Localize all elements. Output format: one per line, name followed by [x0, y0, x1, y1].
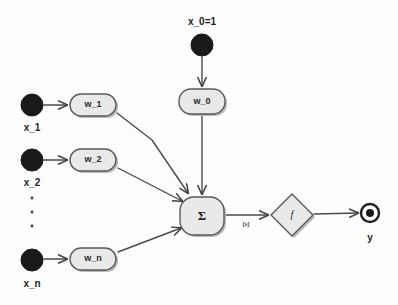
input-node-x1[interactable] [21, 94, 43, 116]
perceptron-diagram: [s] w_0 w_1 w_2 w_n Σ [0, 0, 398, 305]
edge-label-sum-to-f: [s] [243, 221, 250, 227]
input-node-x2[interactable] [21, 149, 43, 171]
input-label-x1: x_1 [24, 122, 41, 133]
summation-label: Σ [198, 208, 207, 223]
weight-label-wn: w_n [83, 253, 102, 263]
activation-node[interactable]: f [271, 194, 315, 238]
summation-node[interactable]: Σ [180, 197, 226, 237]
output-label-y: y [367, 232, 373, 243]
weight-node-wn[interactable]: w_n [70, 248, 118, 272]
input-node-xn[interactable] [21, 249, 43, 271]
weight-node-w0[interactable]: w_0 [179, 89, 227, 116]
input-label-x0: x_0=1 [188, 16, 217, 27]
edge-wn-to-sum [118, 228, 181, 252]
edge-w1-to-sum [117, 113, 188, 193]
input-node-x0[interactable] [191, 34, 213, 56]
weight-label-w0: w_0 [192, 96, 210, 106]
weight-label-w2: w_2 [83, 154, 101, 164]
weight-label-w1: w_1 [83, 99, 101, 109]
weight-node-w1[interactable]: w_1 [70, 94, 118, 118]
diagram-canvas: [s] w_0 w_1 w_2 w_n Σ [0, 0, 398, 305]
vertical-ellipsis-icon [31, 197, 34, 228]
edge-f-to-y [314, 213, 358, 214]
weight-node-w2[interactable]: w_2 [70, 149, 118, 173]
input-label-x2: x_2 [24, 177, 41, 188]
edge-w2-to-sum [118, 168, 182, 201]
input-label-xn: x_n [23, 278, 40, 289]
output-node-y[interactable] [361, 204, 379, 222]
